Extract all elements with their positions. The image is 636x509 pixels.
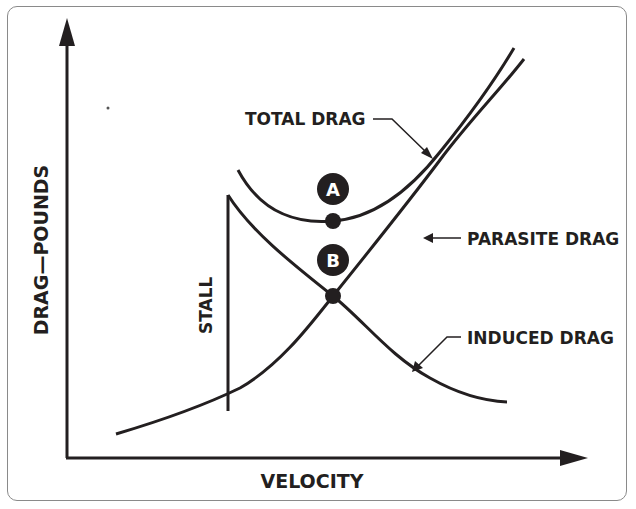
- marker-b-label: B: [326, 250, 340, 271]
- total-drag-curve: [238, 48, 514, 222]
- marker-a-label: A: [326, 179, 340, 200]
- drag-chart: A B TOTAL DRAG PARASITE DRAG INDUCED DRA…: [0, 0, 636, 509]
- speck: [107, 107, 110, 110]
- marker-a-badge: A: [317, 173, 349, 205]
- y-axis-label: DRAG—POUNDS: [30, 165, 52, 336]
- point-b-dot: [325, 288, 341, 304]
- total-drag-leader: [373, 119, 433, 159]
- induced-drag-leader: [412, 337, 461, 372]
- y-axis-arrow-icon: [59, 18, 75, 46]
- parasite-drag-label: PARASITE DRAG: [467, 229, 619, 249]
- marker-b-badge: B: [317, 244, 349, 276]
- x-axis-label: VELOCITY: [261, 470, 364, 492]
- point-a-dot: [325, 213, 341, 229]
- parasite-drag-leader: [423, 233, 461, 243]
- induced-drag-curve: [228, 195, 507, 402]
- arrowhead-icon: [423, 233, 433, 243]
- induced-drag-label: INDUCED DRAG: [467, 328, 614, 348]
- y-axis: [59, 18, 75, 458]
- stall-label: STALL: [196, 276, 216, 334]
- x-axis-arrow-icon: [560, 450, 588, 466]
- total-drag-label: TOTAL DRAG: [245, 109, 366, 129]
- x-axis: [66, 450, 588, 466]
